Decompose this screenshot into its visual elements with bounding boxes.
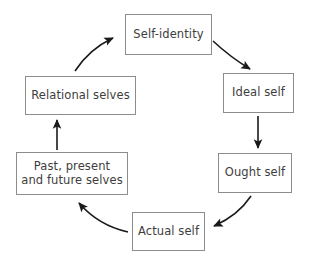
edge-actual-self-to-past-present-future-selves [79, 203, 128, 232]
edge-relational-selves-to-self-identity [75, 38, 113, 71]
node-past-present-future-selves: Past, present and future selves [16, 152, 128, 195]
node-ought-self: Ought self [218, 153, 292, 193]
node-ideal-self: Ideal self [223, 73, 294, 113]
edge-self-identity-to-ideal-self [213, 41, 250, 69]
node-actual-self: Actual self [132, 212, 205, 251]
node-relational-selves: Relational selves [25, 76, 136, 115]
node-self-identity: Self-identity [125, 14, 212, 55]
self-concept-cycle-diagram: Self-identity Ideal self Ought self Actu… [0, 0, 312, 263]
edge-ought-self-to-actual-self [214, 196, 251, 226]
